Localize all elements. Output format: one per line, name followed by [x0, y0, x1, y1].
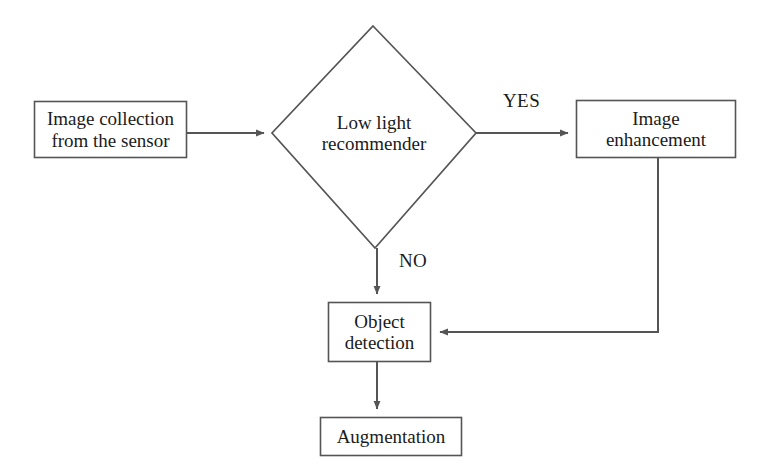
flowchart-svg: [0, 0, 766, 475]
node-image-collection-shape: [35, 102, 187, 158]
node-low-light-recommender-shape: [272, 26, 476, 248]
flowchart-canvas: Image collection from the sensor Low lig…: [0, 0, 766, 475]
node-image-enhancement-shape: [577, 101, 736, 158]
node-object-detection-shape: [329, 303, 431, 362]
node-augmentation-shape: [321, 418, 462, 456]
edge-enhancement-to-detection: [440, 158, 658, 332]
